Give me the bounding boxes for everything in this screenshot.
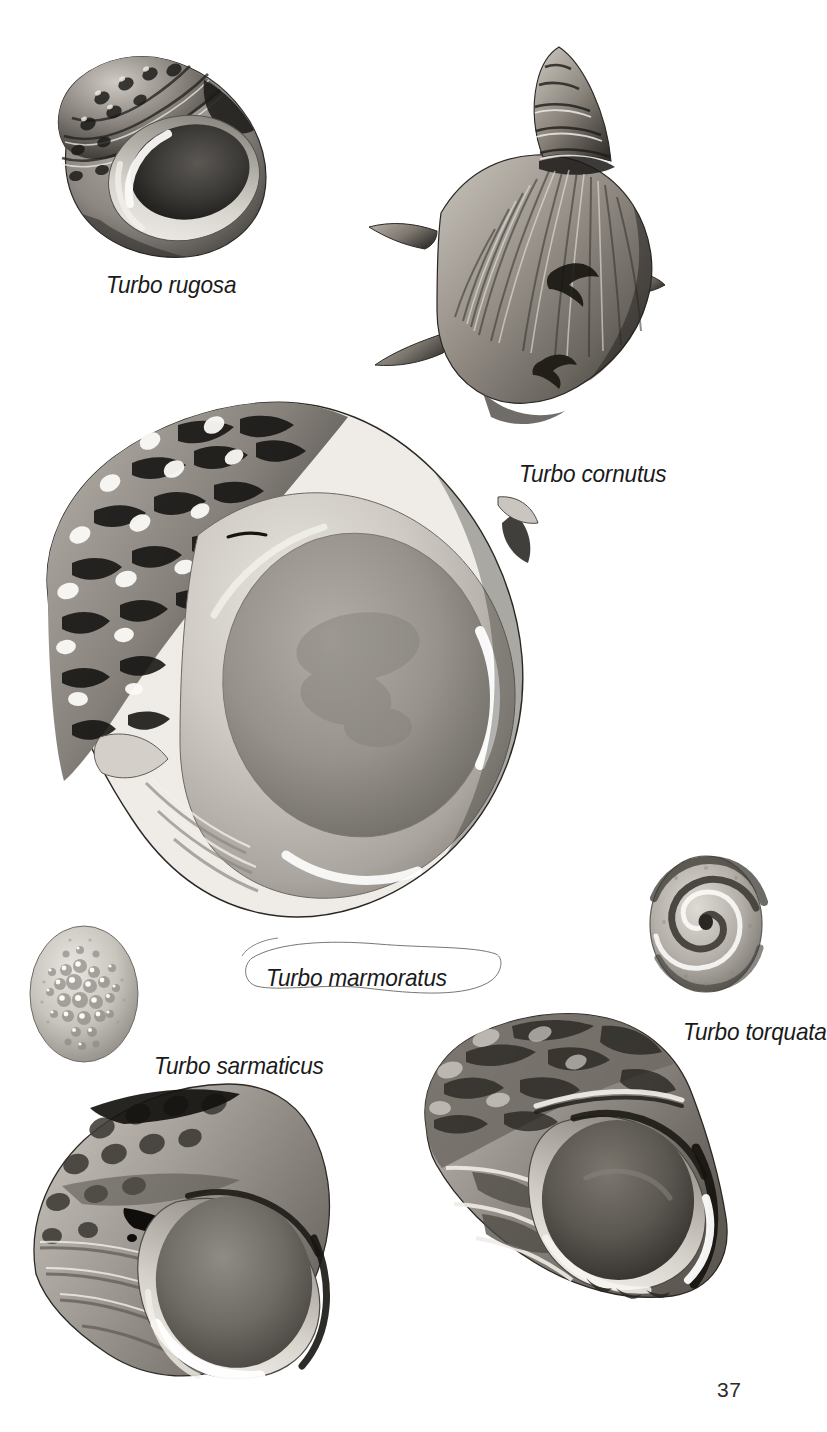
marmoratus-right-flare bbox=[498, 497, 538, 524]
turbo-marmoratus-illustration bbox=[28, 385, 613, 975]
cornutus-horn-upper-left bbox=[369, 224, 437, 249]
turbo-torquata-illustration bbox=[420, 1008, 762, 1304]
specimen-turbo-sarmaticus-operculum bbox=[22, 922, 146, 1067]
specimen-turbo-sarmaticus bbox=[28, 1078, 396, 1383]
torquata-operculum-nucleus bbox=[699, 914, 713, 930]
label-turbo-torquata: Turbo torquata bbox=[683, 1018, 827, 1046]
turbo-sarmaticus-illustration bbox=[28, 1078, 396, 1383]
turbo-cornutus-illustration bbox=[345, 45, 675, 440]
specimen-turbo-torquata-operculum bbox=[640, 852, 772, 997]
torquata-operculum-illustration bbox=[640, 852, 772, 997]
specimen-turbo-marmoratus bbox=[28, 385, 613, 975]
page-number: 37 bbox=[717, 1378, 741, 1402]
label-turbo-sarmaticus: Turbo sarmaticus bbox=[154, 1052, 324, 1080]
label-turbo-marmoratus: Turbo marmoratus bbox=[266, 964, 447, 992]
cornutus-horn-lower-left bbox=[375, 333, 448, 366]
turbo-rugosa-illustration bbox=[18, 38, 288, 263]
specimen-turbo-torquata bbox=[420, 1008, 762, 1304]
specimen-turbo-rugosa bbox=[18, 38, 288, 263]
label-turbo-rugosa: Turbo rugosa bbox=[106, 271, 236, 299]
specimen-turbo-cornutus bbox=[345, 45, 675, 440]
sarmaticus-operculum-illustration bbox=[22, 922, 146, 1067]
